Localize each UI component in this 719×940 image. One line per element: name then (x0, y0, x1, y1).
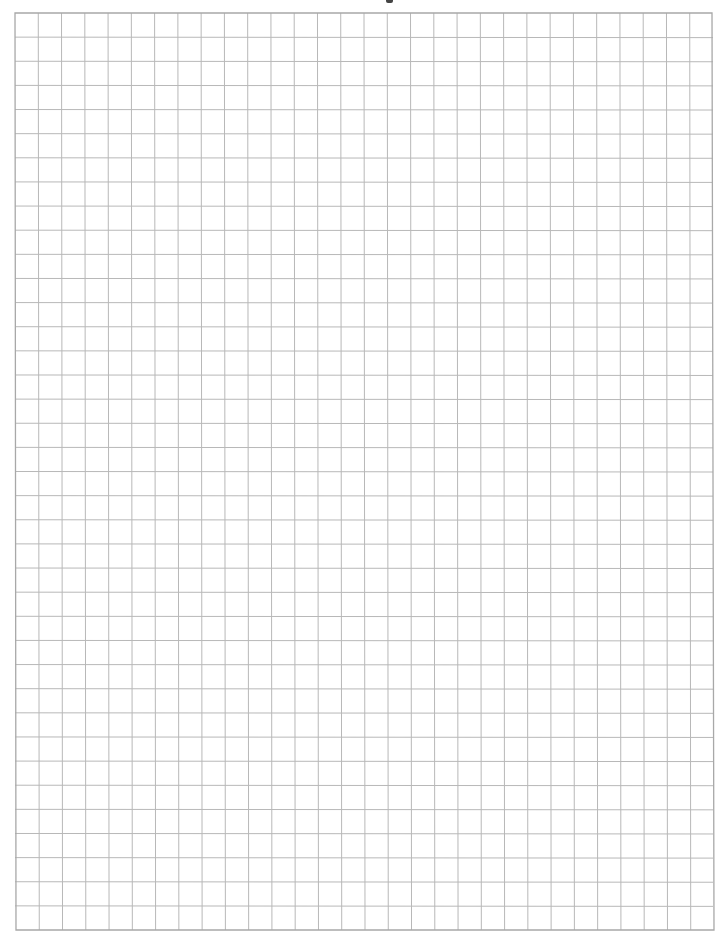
grid-horizontal-line (15, 906, 713, 907)
grid-horizontal-line (15, 761, 713, 762)
grid-horizontal-line (15, 809, 713, 810)
grid-horizontal-line (15, 85, 713, 86)
grid-horizontal-line (15, 616, 713, 617)
grid-horizontal-line (15, 833, 713, 834)
grid-horizontal-line (15, 206, 713, 207)
grid-horizontal-line (15, 37, 713, 38)
grid-horizontal-line (15, 665, 713, 666)
grid-horizontal-line (15, 858, 713, 859)
grid-horizontal-line (15, 785, 713, 786)
grid-horizontal-line (15, 882, 713, 883)
grid-horizontal-line (15, 399, 713, 400)
grid-horizontal-line (15, 568, 713, 569)
grid-horizontal-line (15, 61, 713, 62)
grid-horizontal-line (15, 182, 713, 183)
grid-horizontal-line (15, 520, 713, 521)
grid-horizontal-line (15, 713, 713, 714)
grid-horizontal-line (15, 375, 713, 376)
grid-horizontal-line (15, 640, 713, 641)
grid-horizontal-line (15, 303, 713, 304)
grid-horizontal-line (15, 110, 713, 111)
grid-horizontal-line (15, 447, 713, 448)
grid-horizontal-line (15, 592, 713, 593)
grid-horizontal-line (15, 254, 713, 255)
grid-horizontal-line (15, 158, 713, 159)
grid-horizontal-line (15, 423, 713, 424)
grid-horizontal-line (15, 134, 713, 135)
grid-horizontal-line (15, 230, 713, 231)
grid-horizontal-line (15, 351, 713, 352)
grid-horizontal-line (15, 544, 713, 545)
grid-horizontal-line (15, 737, 713, 738)
grid-horizontal-line (15, 278, 713, 279)
grid-horizontal-line (15, 327, 713, 328)
grid-horizontal-line (15, 689, 713, 690)
grid-lines (0, 0, 719, 940)
grid-horizontal-line (15, 496, 713, 497)
graph-paper-page (0, 0, 719, 940)
grid-horizontal-line (15, 472, 713, 473)
